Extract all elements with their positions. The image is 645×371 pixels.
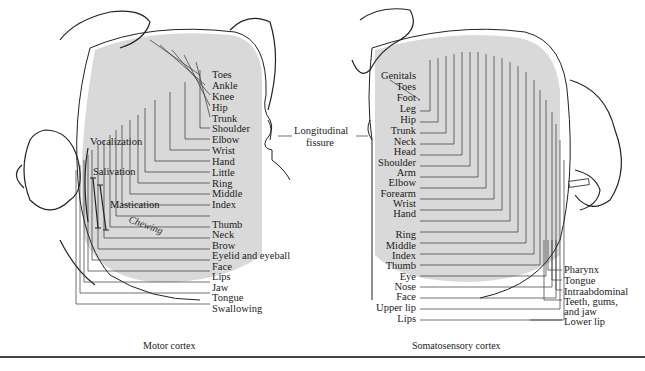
motor-label: Elbow — [212, 134, 240, 145]
motor-label: Index — [212, 199, 237, 210]
motor-label: Wrist — [212, 145, 235, 156]
motor-label: Neck — [212, 229, 235, 240]
motor-label: Tongue — [212, 292, 244, 303]
sensory-label: Genitals — [381, 70, 416, 81]
sensory-label: Head — [394, 146, 417, 157]
sensory-label: Foot — [397, 92, 416, 103]
sensory-label: Lips — [397, 313, 416, 324]
longitudinal-fissure: Longitudinal fissure — [268, 120, 372, 148]
motor-label: Middle — [212, 188, 243, 199]
vocalization-label: Vocalization — [90, 136, 143, 147]
motor-label: Eyelid and eyeball — [212, 250, 290, 261]
motor-label: Hip — [212, 102, 228, 113]
motor-label: Little — [212, 167, 235, 178]
fissure-label-line2: fissure — [306, 137, 334, 148]
motor-label: Lips — [212, 271, 231, 282]
sensory-label: Hand — [393, 208, 416, 219]
motor-label: Shoulder — [212, 123, 250, 134]
motor-cortex-caption: Motor cortex — [143, 340, 196, 351]
motor-label: Hand — [212, 156, 235, 167]
somatosensory-cortex-diagram: Genitals Toes Foot Leg Hip Trunk Neck He… — [352, 9, 628, 327]
face-illustration — [24, 130, 80, 210]
sensory-label: Toes — [396, 81, 416, 92]
sensory-label: Upper lip — [376, 302, 416, 313]
sensory-label: Trunk — [391, 125, 417, 136]
mastication-label: Mastication — [110, 199, 160, 210]
lips-illustration — [575, 170, 600, 210]
sensory-label: Leg — [400, 103, 417, 114]
sensory-label: Face — [396, 291, 416, 302]
pharynx-label: Pharynx — [564, 264, 600, 275]
motor-label: Knee — [212, 91, 234, 102]
teeth-illustration — [569, 179, 590, 188]
face-illustration-right — [570, 80, 621, 206]
motor-label: Toes — [212, 69, 232, 80]
motor-cortex-diagram: Toes Ankle Knee Hip Trunk Shoulder Elbow… — [16, 11, 290, 314]
tongue-label: Tongue — [564, 275, 596, 286]
fissure-label-line1: Longitudinal — [294, 125, 348, 136]
sensory-label: Elbow — [389, 177, 417, 188]
homunculus-figure: Toes Ankle Knee Hip Trunk Shoulder Elbow… — [0, 0, 645, 371]
motor-label: Ankle — [212, 80, 238, 91]
sensory-label: Hip — [400, 114, 416, 125]
sensory-label: Thumb — [386, 260, 416, 271]
sensory-label: Ring — [396, 229, 417, 240]
sensory-cortex-caption: Somatosensory cortex — [412, 340, 501, 351]
bottom-rule — [0, 356, 645, 358]
salivation-label: Salivation — [93, 166, 136, 177]
motor-label: Swallowing — [212, 303, 263, 314]
lower-lip-label: Lower lip — [564, 316, 605, 327]
